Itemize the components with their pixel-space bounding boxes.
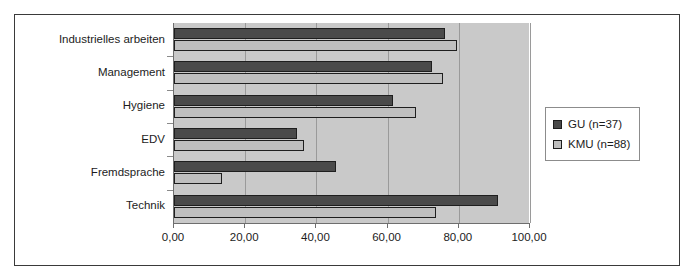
legend-label-gu: GU (n=37) (568, 118, 622, 130)
bar[interactable] (174, 40, 457, 51)
x-tick-label: 0,00 (162, 231, 184, 243)
bar-group (174, 123, 529, 156)
bar-group (174, 156, 529, 189)
bar[interactable] (174, 107, 416, 118)
bar[interactable] (174, 61, 432, 72)
bar[interactable] (174, 95, 393, 106)
legend-swatch-gu (553, 120, 562, 129)
x-tick-label: 100,00 (511, 231, 546, 243)
y-axis-line (173, 23, 174, 223)
legend-label-kmu: KMU (n=88) (568, 138, 630, 150)
plot-area (173, 23, 529, 223)
category-label: Industrielles arbeiten (59, 33, 165, 46)
category-label: Technik (126, 199, 165, 212)
y-tick (167, 90, 173, 91)
x-tick-label: 60,00 (372, 231, 401, 243)
y-tick (167, 56, 173, 57)
x-tick-label: 40,00 (301, 231, 330, 243)
x-axis-line (173, 223, 530, 224)
chart-legend: GU (n=37) KMU (n=88) (545, 107, 640, 161)
bar[interactable] (174, 195, 498, 206)
category-label: EDV (141, 133, 165, 146)
category-label: Hygiene (123, 99, 165, 112)
bar[interactable] (174, 207, 436, 218)
bar[interactable] (174, 173, 222, 184)
clipped-caption-above (130, 0, 550, 4)
x-tick (315, 223, 316, 228)
x-tick (244, 223, 245, 228)
x-tick-label: 80,00 (443, 231, 472, 243)
legend-swatch-kmu (553, 140, 562, 149)
bar-group (174, 90, 529, 123)
bar[interactable] (174, 28, 445, 39)
legend-item-gu[interactable]: GU (n=37) (553, 114, 630, 134)
bar-group (174, 56, 529, 89)
gridline-100 (530, 23, 531, 223)
x-tick (173, 223, 174, 228)
x-tick (458, 223, 459, 228)
y-tick (167, 156, 173, 157)
bar[interactable] (174, 128, 297, 139)
x-tick (529, 223, 530, 228)
legend-item-kmu[interactable]: KMU (n=88) (553, 134, 630, 154)
category-label: Management (98, 66, 165, 79)
bar[interactable] (174, 161, 336, 172)
x-tick-label: 20,00 (230, 231, 259, 243)
bar-group (174, 190, 529, 223)
bar-group (174, 23, 529, 56)
x-tick (387, 223, 388, 228)
y-tick (167, 190, 173, 191)
chart-frame: Industrielles arbeitenManagementHygieneE… (14, 14, 680, 266)
bar[interactable] (174, 140, 304, 151)
y-tick (167, 123, 173, 124)
category-label: Fremdsprache (91, 166, 165, 179)
bar[interactable] (174, 73, 443, 84)
